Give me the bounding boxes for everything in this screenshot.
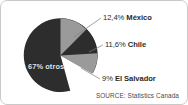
pie-label-chile: 11,6% Chile (105, 41, 146, 49)
pie-chart-card: 67% otros 12,4% México 11,6% Chile 9% El… (0, 0, 188, 105)
pie-label-chile-name: Chile (128, 40, 146, 49)
pie-label-el-salvador: 9% El Salvador (102, 75, 156, 83)
pie-chart-svg (22, 17, 99, 94)
pie-slice-label-otros: 67% otros (28, 62, 88, 71)
source-note: SOURCE: Statistics Canada (96, 92, 179, 99)
pie-label-mexico: 12,4% México (103, 14, 152, 22)
pie-label-mexico-name: México (126, 13, 151, 22)
pie-label-chile-value: 11,6% (105, 40, 126, 49)
pie-label-el-salvador-value: 9% (102, 74, 113, 83)
pie-label-mexico-value: 12,4% (103, 13, 124, 22)
pie-label-el-salvador-name: El Salvador (115, 74, 156, 83)
pie-chart: 67% otros (22, 17, 99, 94)
